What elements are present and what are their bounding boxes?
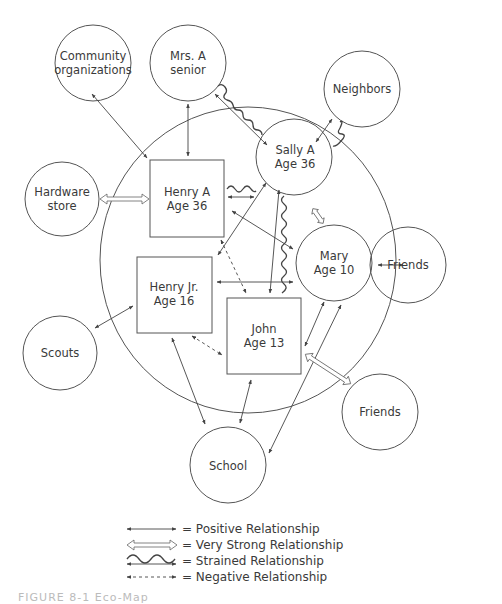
sally-a-label: Sally AAge 36 xyxy=(275,143,316,171)
hardware-label: Hardwarestore xyxy=(34,185,90,213)
edge-henry-john-negative xyxy=(221,240,246,293)
community-label: Communityorganizations xyxy=(54,49,132,77)
friends-bottom-label: Friends xyxy=(359,405,400,419)
figure-caption: FIGURE 8-1 Eco-Map xyxy=(18,591,149,604)
edge-sally-mary-very-strong xyxy=(310,206,327,225)
edge-sally-henryjr xyxy=(218,183,266,255)
edge-john-school xyxy=(240,380,251,423)
edge-mrsa-sally xyxy=(215,94,267,145)
legend-very-strong-label: = Very Strong Relationship xyxy=(182,538,343,552)
legend-strained: = Strained Relationship xyxy=(182,553,324,569)
legend-very-strong: = Very Strong Relationship xyxy=(182,537,343,553)
legend-strained-label: = Strained Relationship xyxy=(182,554,324,568)
legend-negative: = Negative Relationship xyxy=(182,569,327,585)
henry-jr-label: Henry Jr.Age 16 xyxy=(150,280,199,308)
legend-negative-label: = Negative Relationship xyxy=(182,570,327,584)
edge-sally-john xyxy=(270,190,279,293)
neighbors-label: Neighbors xyxy=(333,82,392,96)
legend-positive-label: = Positive Relationship xyxy=(182,522,320,536)
school-label: School xyxy=(209,459,247,473)
henry-a-label: Henry AAge 36 xyxy=(164,185,210,213)
legend-very-strong-icon xyxy=(127,540,177,550)
edge-mary-john xyxy=(305,302,324,346)
edge-henry-sally-strained xyxy=(227,186,256,192)
scouts-label: Scouts xyxy=(41,346,79,360)
friends-right-label: Friends xyxy=(387,258,428,272)
legend-strained-icon xyxy=(127,555,175,563)
edge-henryjr-school xyxy=(172,338,205,424)
edge-mrsa-sally-strained xyxy=(218,85,262,135)
edge-neighbors-sally xyxy=(316,119,332,142)
legend-positive: = Positive Relationship xyxy=(182,521,320,537)
john-label: JohnAge 13 xyxy=(244,322,285,350)
mary-label: MaryAge 10 xyxy=(314,249,355,277)
edge-hardware-henry-very-strong xyxy=(100,194,149,204)
mrs-a-label: Mrs. Asenior xyxy=(170,49,206,77)
edge-community-henry xyxy=(92,94,147,158)
edge-henryjr-john-negative xyxy=(192,336,222,355)
